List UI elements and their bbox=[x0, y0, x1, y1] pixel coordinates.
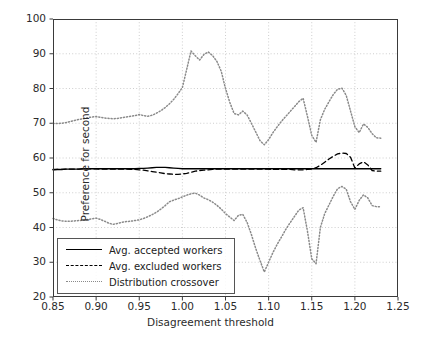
x-tick-label: 1.10 bbox=[246, 300, 292, 312]
figure: 2030405060708090100 0.850.900.951.001.05… bbox=[0, 0, 421, 339]
legend-item: Distribution crossover bbox=[58, 274, 234, 290]
y-axis-title: Preference for second bbox=[79, 89, 91, 239]
y-tick-label: 90 bbox=[4, 47, 46, 59]
y-axis-title-wrapper: Preference for second bbox=[72, 20, 73, 21]
legend-item: Avg. excluded workers bbox=[58, 258, 234, 274]
legend-swatch-dashed-icon bbox=[64, 260, 104, 272]
legend-swatch-dotted-icon bbox=[64, 276, 104, 288]
legend-swatch-solid-icon bbox=[64, 244, 104, 256]
x-tick-label: 0.95 bbox=[116, 300, 162, 312]
x-tick-label: 1.20 bbox=[332, 300, 378, 312]
y-tick-label: 60 bbox=[4, 151, 46, 163]
legend-item: Avg. accepted workers bbox=[58, 242, 234, 258]
y-tick-label: 100 bbox=[4, 12, 46, 24]
legend-item-label: Distribution crossover bbox=[109, 277, 219, 288]
y-tick-label: 40 bbox=[4, 221, 46, 233]
legend: Avg. accepted workers Avg. excluded work… bbox=[57, 238, 235, 294]
x-tick-label: 1.00 bbox=[159, 300, 205, 312]
x-tick-label: 1.25 bbox=[375, 300, 421, 312]
legend-item-label: Avg. excluded workers bbox=[109, 261, 222, 272]
y-tick-label: 80 bbox=[4, 82, 46, 94]
x-axis-title: Disagreement threshold bbox=[0, 316, 421, 328]
x-tick-label: 1.05 bbox=[203, 300, 249, 312]
y-tick-label: 50 bbox=[4, 186, 46, 198]
x-tick-label: 0.90 bbox=[73, 300, 119, 312]
legend-item-label: Avg. accepted workers bbox=[109, 245, 222, 256]
x-tick-label: 1.15 bbox=[289, 300, 335, 312]
y-tick-label: 30 bbox=[4, 255, 46, 267]
y-tick-label: 70 bbox=[4, 116, 46, 128]
x-tick-label: 0.85 bbox=[30, 300, 76, 312]
